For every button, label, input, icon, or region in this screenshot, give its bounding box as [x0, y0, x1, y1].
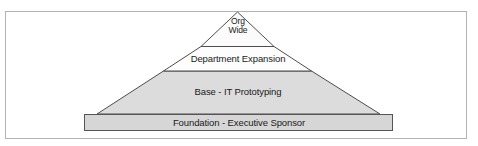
- pyramid-diagram-figure: Org Wide Department Expansion Base - IT …: [0, 0, 478, 146]
- pyramid-tier-3-label: Base - IT Prototyping: [138, 87, 338, 97]
- pyramid-tier-2-label: Department Expansion: [148, 54, 328, 64]
- pyramid-apex-label-line-2: Wide: [200, 26, 276, 35]
- pyramid-apex-label: Org Wide: [200, 17, 276, 35]
- pyramid-foundation-label: Foundation - Executive Sponsor: [100, 118, 378, 128]
